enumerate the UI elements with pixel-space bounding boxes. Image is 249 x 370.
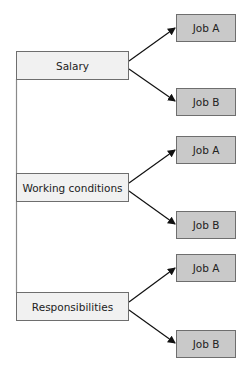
criterion-label: Working conditions xyxy=(22,182,122,194)
option-resp-job-b: Job B xyxy=(176,330,236,358)
option-label: Job B xyxy=(193,219,220,231)
arrow-resp-job-b xyxy=(129,310,175,343)
arrow-resp-job-a xyxy=(129,268,175,302)
option-label: Job B xyxy=(193,96,220,108)
option-working-job-b: Job B xyxy=(176,211,236,239)
option-salary-job-a: Job A xyxy=(176,14,236,42)
option-label: Job A xyxy=(193,144,220,156)
option-label: Job A xyxy=(193,262,220,274)
arrow-working-job-b xyxy=(129,191,175,224)
criterion-working-conditions: Working conditions xyxy=(16,173,129,202)
option-resp-job-a: Job A xyxy=(176,254,236,282)
arrow-salary-job-b xyxy=(129,69,175,101)
option-salary-job-b: Job B xyxy=(176,88,236,116)
option-working-job-a: Job A xyxy=(176,136,236,164)
criterion-salary: Salary xyxy=(16,51,129,80)
option-label: Job B xyxy=(193,338,220,350)
criterion-label: Salary xyxy=(56,60,89,72)
criterion-responsibilities: Responsibilities xyxy=(16,292,129,321)
criterion-label: Responsibilities xyxy=(32,301,113,313)
arrow-salary-job-a xyxy=(129,28,175,61)
arrow-working-job-a xyxy=(129,150,175,183)
option-label: Job A xyxy=(193,22,220,34)
